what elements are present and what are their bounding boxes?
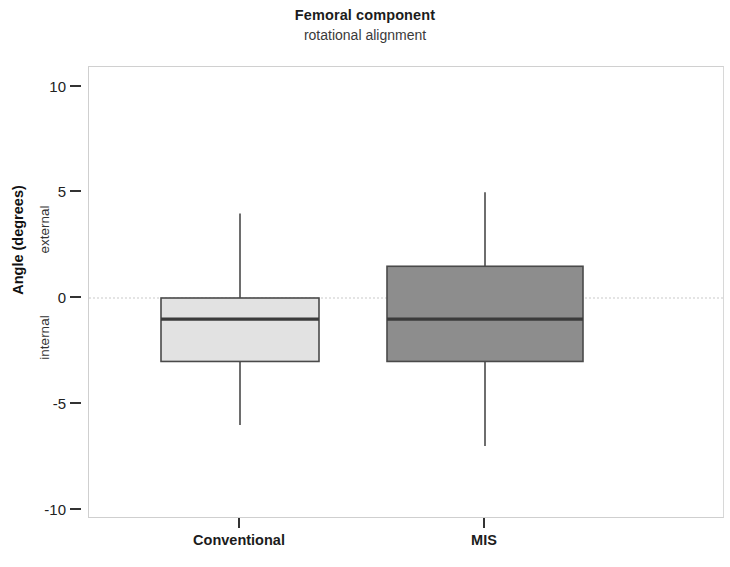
- x-tick-mark: [483, 518, 485, 528]
- box-iqr: [387, 266, 583, 361]
- y-tick-label: 0: [58, 289, 66, 306]
- y-tick-mark: [70, 296, 81, 298]
- boxplot-conventional: [161, 213, 319, 425]
- y-tick-label: -10: [44, 500, 66, 517]
- y-tick-label: 5: [58, 183, 66, 200]
- box-iqr: [161, 298, 319, 361]
- y-tick-mark: [70, 85, 81, 87]
- chart-subtitle: rotational alignment: [0, 25, 730, 45]
- y-tick-label: 10: [49, 77, 66, 94]
- y-tick-label: -5: [53, 394, 66, 411]
- chart-header: Femoral component rotational alignment: [0, 6, 730, 45]
- x-tick-label-conventional: Conventional: [193, 532, 285, 548]
- y-tick-mark: [70, 190, 81, 192]
- boxplot-canvas: [89, 67, 725, 519]
- x-tick-label-mis: MIS: [471, 532, 497, 548]
- chart-title: Femoral component: [0, 6, 730, 24]
- y-tick-mark: [70, 508, 81, 510]
- y-axis-ticks: 1050-5-10: [0, 0, 88, 567]
- x-tick-mark: [238, 518, 240, 528]
- plot-area: [88, 66, 724, 518]
- boxplot-mis: [387, 192, 583, 446]
- y-tick-mark: [70, 402, 81, 404]
